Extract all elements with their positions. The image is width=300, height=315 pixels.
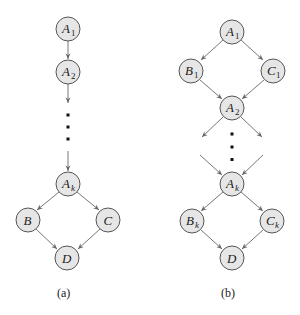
ellipsis-dot bbox=[67, 114, 70, 117]
edge-a2-continuation-left bbox=[202, 117, 223, 137]
node-c: C bbox=[96, 208, 120, 232]
edge-bk-d bbox=[201, 230, 222, 249]
edge-a1-c1 bbox=[241, 40, 263, 60]
node-bk: B k bbox=[180, 209, 204, 233]
node-label: D bbox=[226, 251, 237, 266]
node-a1: A 1 bbox=[56, 17, 80, 41]
edge-ak-c bbox=[77, 192, 99, 210]
node-label: C bbox=[267, 63, 276, 78]
node-d: D bbox=[55, 246, 79, 270]
node-ck: C k bbox=[260, 209, 284, 233]
node-subscript: 2 bbox=[235, 107, 240, 117]
edge-ak-bk bbox=[201, 192, 223, 211]
node-b: B bbox=[16, 208, 40, 232]
diagram-b: A 1 B 1 C 1 A 2 A k B k C bbox=[179, 20, 285, 300]
node-ak: A k bbox=[56, 172, 80, 196]
node-b1: B 1 bbox=[179, 59, 203, 83]
node-a2: A 2 bbox=[220, 96, 244, 120]
edge-a2-continuation-right bbox=[241, 117, 262, 137]
edge-ak-ck bbox=[241, 192, 263, 211]
edge-continuation-ak-left bbox=[200, 155, 222, 175]
node-d: D bbox=[220, 246, 244, 270]
ellipsis-dot bbox=[231, 158, 234, 161]
diagram-canvas: A 1 A 2 A k B C D (a) bbox=[0, 0, 300, 315]
node-label: A bbox=[61, 64, 70, 79]
node-subscript: 1 bbox=[194, 70, 199, 80]
caption-b: (b) bbox=[221, 286, 235, 300]
node-a1: A 1 bbox=[220, 20, 244, 44]
node-label: A bbox=[225, 176, 234, 191]
ellipsis-dot bbox=[67, 138, 70, 141]
node-label: A bbox=[225, 24, 234, 39]
edge-continuation-ak-right bbox=[242, 155, 263, 175]
edge-c-d bbox=[78, 229, 100, 249]
node-subscript: 1 bbox=[276, 70, 281, 80]
node-label: B bbox=[185, 63, 193, 78]
node-label: C bbox=[266, 213, 275, 228]
node-label: C bbox=[104, 213, 113, 228]
node-label: D bbox=[61, 251, 72, 266]
edge-b1-a2 bbox=[200, 80, 222, 99]
node-subscript: 2 bbox=[71, 71, 76, 81]
ellipsis-dot bbox=[231, 133, 234, 136]
edge-b-d bbox=[36, 229, 57, 249]
node-label: A bbox=[61, 21, 70, 36]
node-label: A bbox=[225, 100, 234, 115]
edge-c1-a2 bbox=[242, 80, 264, 99]
ellipsis-dot bbox=[67, 126, 70, 129]
caption-a: (a) bbox=[57, 286, 70, 300]
node-a2: A 2 bbox=[56, 60, 80, 84]
node-subscript: 1 bbox=[71, 28, 76, 38]
node-label: B bbox=[24, 213, 32, 228]
node-label: B bbox=[186, 213, 194, 228]
node-c1: C 1 bbox=[261, 59, 285, 83]
ellipsis-dot bbox=[231, 146, 234, 149]
node-label: A bbox=[61, 176, 70, 191]
diagram-a: A 1 A 2 A k B C D (a) bbox=[16, 17, 120, 300]
edge-ak-b bbox=[37, 192, 59, 210]
node-subscript: 1 bbox=[235, 31, 240, 41]
node-ak: A k bbox=[220, 172, 244, 196]
edge-a1-b1 bbox=[201, 40, 223, 60]
edge-ck-d bbox=[242, 230, 263, 249]
